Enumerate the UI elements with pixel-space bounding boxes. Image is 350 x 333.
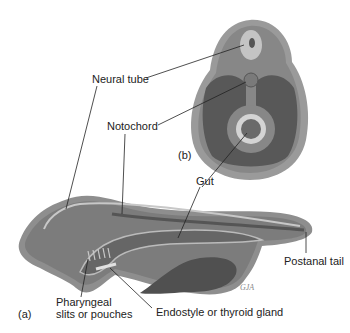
label-pharyngeal-1: Pharyngeal	[56, 296, 112, 308]
label-notochord: Notochord	[107, 120, 158, 132]
label-postanal-tail: Postanal tail	[284, 255, 344, 267]
label-panel-b: (b)	[178, 149, 191, 161]
label-endostyle: Endostyle or thyroid gland	[156, 306, 283, 318]
lateral-view: GJA	[19, 196, 313, 295]
label-panel-a: (a)	[18, 308, 31, 320]
label-pharyngeal-2: slits or pouches	[56, 308, 132, 320]
chordate-diagram: GJA	[0, 0, 350, 333]
artist-signature: GJA	[240, 283, 254, 292]
label-gut: Gut	[196, 175, 214, 187]
label-neural-tube: Neural tube	[92, 73, 149, 85]
